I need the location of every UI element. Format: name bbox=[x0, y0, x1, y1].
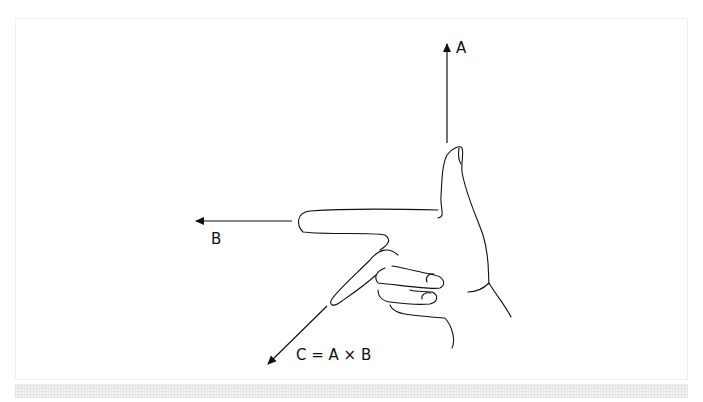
right-hand-rule-diagram bbox=[0, 0, 703, 402]
label-c-equation: C = A × B bbox=[296, 346, 371, 364]
label-b: B bbox=[211, 230, 221, 248]
hand-illustration bbox=[299, 147, 511, 348]
label-a: A bbox=[456, 39, 466, 57]
